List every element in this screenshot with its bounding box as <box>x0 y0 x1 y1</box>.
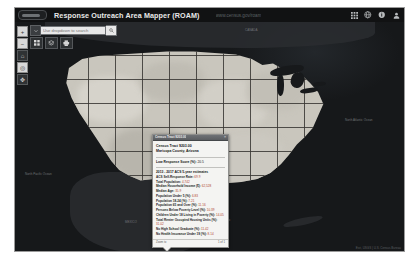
statistic-row: ACS Self-Response Rate: 69.9 <box>156 175 225 179</box>
user-icon[interactable] <box>392 11 400 19</box>
header-icon-group <box>350 11 400 19</box>
zoom-out-button[interactable]: − <box>17 38 28 49</box>
statistic-label: Median Age: <box>156 189 175 193</box>
statistic-value: 8.14 <box>208 232 214 236</box>
statistic-value: 11.42 <box>201 227 209 231</box>
statistic-value: 10.39 <box>207 208 215 212</box>
statistic-value: 62,528 <box>202 184 211 188</box>
screenshot-root: Response Outreach Area Mapper (ROAM) www… <box>0 0 417 265</box>
search-widget <box>30 26 117 35</box>
statistic-value: 11.16 <box>198 203 206 207</box>
map-label-atlantic: North Atlantic Ocean <box>345 118 373 122</box>
statistic-label: Population 18-24 (%): <box>156 199 188 203</box>
statistic-row: Total Renter Occupied Housing Units (%):… <box>156 218 225 227</box>
statistic-value: 6.83 <box>192 194 198 198</box>
zoom-in-button[interactable]: + <box>17 26 28 37</box>
statistic-value: 4,742 <box>182 180 190 184</box>
map-attribution: Esri, USGS | U.S. Census Bureau <box>356 246 401 250</box>
statistics-list: ACS Self-Response Rate: 69.9Total Popula… <box>156 175 225 236</box>
chevron-down-icon <box>34 29 38 33</box>
statistic-label: Population 65 and Over (%): <box>156 203 198 207</box>
application-window: Response Outreach Area Mapper (ROAM) www… <box>14 7 405 252</box>
statistic-row: Persons Below Poverty Level (%): 10.39 <box>156 208 225 212</box>
statistic-row: Population 18-24 (%): 7.21 <box>156 199 225 203</box>
statistic-label: Median Household Income ($): <box>156 184 202 188</box>
statistic-value: 7.21 <box>188 199 194 203</box>
statistic-value: 31.02 <box>156 222 164 226</box>
map-toolbar <box>30 37 73 49</box>
statistic-row: Median Household Income ($): 62,528 <box>156 184 225 188</box>
statistic-row: No High School Graduate (%): 11.42 <box>156 227 225 231</box>
popup-title: Census Tract 9203.00 <box>155 135 186 139</box>
statistic-label: No High School Graduate (%): <box>156 227 201 231</box>
statistic-value: 14.05 <box>216 213 224 217</box>
statistic-value: 35.9 <box>175 189 181 193</box>
map-canvas[interactable]: CANADA MEXICO North Atlantic Ocean North… <box>15 22 404 251</box>
statistic-label: Total Population: <box>156 180 182 184</box>
map-label-mexico: MEXICO <box>125 220 137 224</box>
statistic-row: Total Population: 4,742 <box>156 180 225 184</box>
statistic-label: Children Under 18 Living in Poverty (%): <box>156 213 216 217</box>
statistic-label: Persons Below Poverty Level (%): <box>156 208 207 212</box>
low-response-score-row: Low Response Score (%): 20.5 <box>156 160 225 165</box>
statistic-row: No Health Insurance Under 19 (%): 8.14 <box>156 232 225 236</box>
divider <box>156 157 225 158</box>
layer-list-button[interactable] <box>45 37 58 49</box>
search-button[interactable] <box>106 25 117 36</box>
statistic-label: Population Under 5 (%): <box>156 194 192 198</box>
low-response-score-value: 20.5 <box>197 160 203 164</box>
search-input[interactable] <box>41 26 106 35</box>
home-button[interactable]: ⌂ <box>17 50 28 61</box>
acs-source-label: 2013 - 2017 ACS 5-year estimates <box>156 170 225 175</box>
statistic-label: Total Renter Occupied Housing Units (%): <box>156 218 217 222</box>
popup-county-name: Maricopa County, Arizona <box>156 149 225 154</box>
divider <box>156 167 225 168</box>
page-title: Response Outreach Area Mapper (ROAM) <box>54 11 200 20</box>
map-label-pacific: North Pacific Ocean <box>25 172 52 176</box>
pan-button[interactable]: ✥ <box>17 74 28 85</box>
zoom-to-link[interactable]: Zoom to <box>156 241 166 245</box>
info-icon[interactable] <box>378 11 386 19</box>
header-url-text: www.census.gov/roam <box>216 13 262 18</box>
statistic-label: No Health Insurance Under 19 (%): <box>156 232 208 236</box>
popup-pointer <box>163 247 171 251</box>
close-icon[interactable]: × <box>224 136 226 140</box>
search-scope-dropdown[interactable] <box>30 25 41 36</box>
census-bureau-logo <box>18 10 47 20</box>
locate-button[interactable]: ◎ <box>17 62 28 73</box>
basemap-gallery-button[interactable] <box>30 37 43 49</box>
statistic-row: Median Age: 35.9 <box>156 189 225 193</box>
statistic-row: Population Under 5 (%): 6.83 <box>156 194 225 198</box>
globe-icon[interactable] <box>364 11 372 19</box>
statistic-row: Children Under 18 Living in Poverty (%):… <box>156 213 225 217</box>
feature-info-popup: Census Tract 9203.00 × Census Tract 9203… <box>152 134 229 248</box>
popup-pager: 1 of 1 <box>218 241 225 245</box>
grid-icon[interactable] <box>350 11 358 19</box>
popup-footer: Zoom to 1 of 1 <box>153 239 228 246</box>
low-response-score-label: Low Response Score (%): <box>156 160 197 164</box>
statistic-value: 69.9 <box>194 175 200 179</box>
statistic-row: Population 65 and Over (%): 11.16 <box>156 203 225 207</box>
map-label-canada: CANADA <box>245 28 258 32</box>
lake-michigan <box>277 74 284 96</box>
search-icon <box>109 28 114 33</box>
map-control-stack: + − ⌂ ◎ ✥ <box>17 26 26 85</box>
print-button[interactable] <box>60 37 73 49</box>
app-header: Response Outreach Area Mapper (ROAM) www… <box>15 8 404 22</box>
popup-body: Census Tract 9203.00 Maricopa County, Ar… <box>153 141 228 239</box>
statistic-label: ACS Self-Response Rate: <box>156 175 194 179</box>
